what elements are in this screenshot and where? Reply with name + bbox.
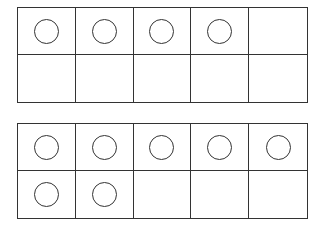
circle-counter-icon [34,19,59,44]
circle-counter-icon [92,135,117,160]
ten-frame-cell-filled [76,124,134,171]
ten-frame-cell-filled [76,8,134,55]
ten-frame-cell-filled [191,124,249,171]
ten-frame-cell-empty [249,171,307,218]
ten-frame-cell-empty [249,8,307,55]
circle-counter-icon [92,182,117,207]
ten-frame-top [17,7,308,103]
ten-frame-cell-empty [76,55,134,102]
circle-counter-icon [34,135,59,160]
ten-frame-cell-filled [18,124,76,171]
circle-counter-icon [266,135,291,160]
ten-frame-bottom [17,123,308,219]
circle-counter-icon [207,135,232,160]
circle-counter-icon [34,182,59,207]
ten-frame-cell-empty [134,55,192,102]
ten-frame-cell-filled [18,171,76,218]
ten-frame-cell-empty [191,55,249,102]
ten-frame-cell-filled [134,8,192,55]
circle-counter-icon [207,19,232,44]
ten-frame-cell-filled [134,124,192,171]
ten-frame-cell-empty [18,55,76,102]
ten-frame-cell-empty [134,171,192,218]
ten-frame-cell-empty [191,171,249,218]
ten-frame-cell-filled [191,8,249,55]
circle-counter-icon [92,19,117,44]
ten-frame-cell-empty [249,55,307,102]
circle-counter-icon [149,135,174,160]
ten-frame-cell-filled [249,124,307,171]
circle-counter-icon [149,19,174,44]
ten-frame-cell-filled [76,171,134,218]
ten-frame-cell-filled [18,8,76,55]
